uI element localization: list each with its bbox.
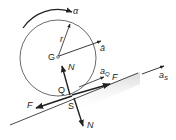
- contact-s-label: S: [68, 101, 74, 111]
- angular-acceleration-arrow: [23, 10, 72, 28]
- friction-left-label: F: [27, 100, 33, 110]
- friction-right-label: F: [112, 72, 118, 82]
- center-point: [57, 56, 60, 59]
- normal-down-label: N: [87, 120, 94, 130]
- center-label: G: [48, 52, 55, 62]
- accel-g-label: ā: [100, 43, 105, 53]
- normal-up-label: N: [68, 62, 75, 72]
- accel-q-label: aQ: [100, 66, 110, 77]
- rolling-disk-diagram: α r G ā N Q aQ F F S aS N: [0, 0, 176, 140]
- accel-s-label: aS: [159, 70, 168, 81]
- accel-q-arrow: [79, 77, 104, 87]
- contact-q-label: Q: [58, 85, 65, 95]
- alpha-label: α: [73, 6, 79, 16]
